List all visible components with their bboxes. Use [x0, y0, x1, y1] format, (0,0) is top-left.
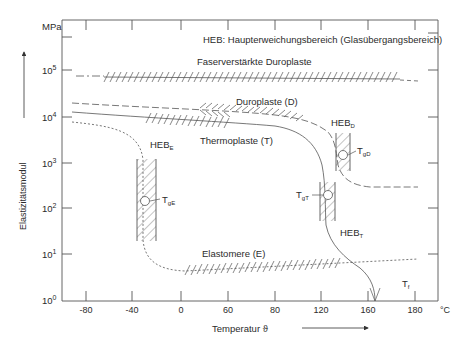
heb-e-region — [137, 159, 160, 241]
label-tf: Tf — [402, 279, 409, 290]
x-tick-label: -80 — [79, 306, 92, 315]
y-tick-1e4: 104 — [42, 111, 56, 123]
curve-faser-duroplaste — [76, 72, 418, 82]
label-duroplaste: Duroplaste (D) — [236, 97, 298, 107]
x-tick-label: -40 — [125, 306, 138, 315]
diagram: MPa 105 104 103 102 101 100 Elastizitäts… — [0, 0, 459, 349]
x-unit-label: °C — [440, 306, 450, 315]
label-tg-d: TgD — [357, 146, 370, 157]
x-tick-label: 80 — [270, 306, 280, 315]
y-tick-1e2: 102 — [42, 202, 56, 214]
x-tick-label: 120 — [313, 306, 328, 315]
y-tick-1e1: 101 — [42, 248, 56, 260]
x-tick-label: 180 — [407, 306, 422, 315]
heb-d-region — [336, 133, 356, 171]
label-heb-e: HEBE — [150, 140, 174, 151]
label-tg-e: TgE — [162, 195, 175, 206]
x-axis-label: Temperatur ϑ — [212, 324, 268, 334]
chart-canvas — [0, 0, 459, 349]
diagram-title: HEB: Haupterweichungsbereich (Glasüberga… — [203, 35, 442, 45]
y-unit-label: MPa — [42, 22, 62, 32]
heb-t-region — [312, 182, 335, 221]
y-tick-1e0: 100 — [42, 294, 56, 306]
y-tick-1e5: 105 — [42, 64, 56, 76]
y-axis-label: Elastizitätsmodul — [18, 162, 28, 230]
label-faser-duroplaste: Faserverstärkte Duroplaste — [197, 57, 312, 67]
x-tick-label: 0 — [178, 306, 183, 315]
x-tick-label: 160 — [360, 306, 375, 315]
label-thermoplaste: Thermoplaste (T) — [200, 136, 273, 146]
x-tick-label: 60 — [223, 306, 233, 315]
label-tg-t: TgT — [296, 190, 309, 201]
label-heb-t: HEBT — [340, 228, 363, 239]
label-heb-d: HEBD — [331, 118, 355, 129]
label-elastomere: Elastomere (E) — [202, 249, 265, 259]
y-tick-1e3: 103 — [42, 157, 56, 169]
